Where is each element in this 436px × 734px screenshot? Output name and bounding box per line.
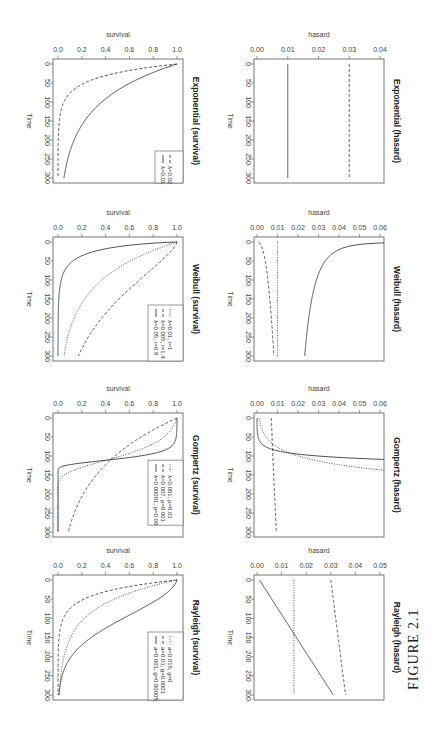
time-tick-label: 0 — [44, 240, 51, 244]
value-tick-label: 0.0 — [53, 400, 63, 407]
value-tick-label: 0.02 — [291, 224, 305, 231]
time-tick-label: 100 — [44, 612, 51, 624]
time-tick-label: 0 — [245, 240, 252, 244]
panel-weibull-survival: 0.00.20.40.60.81.0survival05010015020025… — [26, 209, 201, 362]
legend-entry: a=0.015, g=0 — [167, 647, 173, 683]
value-tick-label: 0.8 — [148, 224, 158, 231]
time-tick-label: 50 — [44, 433, 51, 441]
time-tick-label: 200 — [44, 651, 51, 663]
legend-entry: a=0.001, g=0.00005 — [153, 647, 159, 701]
time-tick-label: 300 — [44, 350, 51, 362]
value-tick-label: 0.6 — [125, 224, 135, 231]
time-tick-label: 300 — [245, 172, 252, 184]
value-tick-label: 0.6 — [125, 400, 135, 407]
value-tick-label: 1.0 — [172, 400, 182, 407]
value-tick-label: 0.8 — [148, 562, 158, 569]
time-tick-label: 100 — [44, 274, 51, 286]
value-tick-label: 1.0 — [172, 46, 182, 53]
value-tick-label: 0.2 — [77, 224, 87, 231]
plot-frame — [254, 575, 384, 700]
series-line-dashed — [331, 580, 346, 695]
time-tick-label: 200 — [245, 312, 252, 324]
time-tick-label: 0 — [44, 416, 51, 420]
time-tick-label: 0 — [245, 578, 252, 582]
value-tick-label: 0.4 — [101, 224, 111, 231]
legend: λ=0.05, r=0.8λ=0.005, r=1.4λ=0.01, r=1 — [148, 305, 183, 361]
legend-entry: λ=0.02 — [167, 166, 173, 185]
value-tick-label: 0.05 — [353, 400, 367, 407]
value-axis-label: hasard — [308, 31, 330, 38]
value-tick-label: 0.01 — [271, 224, 285, 231]
time-tick-label: 250 — [44, 331, 51, 343]
time-tick-label: 100 — [245, 96, 252, 108]
time-tick-label: 100 — [245, 274, 252, 286]
value-tick-label: 0.04 — [332, 400, 346, 407]
value-tick-label: 0.00 — [250, 562, 264, 569]
time-axis-label: Time — [227, 291, 234, 306]
time-tick-label: 50 — [245, 433, 252, 441]
time-tick-label: 150 — [245, 115, 252, 127]
value-tick-label: 0.01 — [271, 400, 285, 407]
panel-rayleigh-survival: 0.00.20.40.60.81.0survival05010015020025… — [26, 547, 201, 701]
figure-label: FIGURE 2.1 — [406, 608, 421, 690]
time-tick-label: 300 — [44, 526, 51, 538]
time-tick-label: 250 — [245, 670, 252, 682]
time-tick-label: 50 — [245, 595, 252, 603]
time-tick-label: 150 — [44, 115, 51, 127]
value-tick-label: 0.04 — [373, 46, 387, 53]
value-axis-label: hasard — [308, 209, 330, 216]
time-tick-label: 250 — [44, 153, 51, 165]
time-tick-label: 150 — [245, 293, 252, 305]
value-tick-label: 0.2 — [77, 46, 87, 53]
time-tick-label: 50 — [44, 257, 51, 265]
time-tick-label: 300 — [44, 172, 51, 184]
value-axis-label: hasard — [308, 547, 330, 554]
value-tick-label: 0.03 — [324, 562, 338, 569]
panel-title: Exponential (hasard) — [392, 79, 402, 163]
legend-entry: a=0.03, g=0.0001 — [160, 647, 166, 695]
time-tick-label: 200 — [245, 488, 252, 500]
time-tick-label: 50 — [44, 595, 51, 603]
time-tick-label: 250 — [44, 670, 51, 682]
legend-entry: λ=0.01, r=1 — [167, 320, 173, 351]
time-tick-label: 250 — [245, 153, 252, 165]
legend-entry: λ=0.007, ρ=0.001 — [160, 475, 166, 522]
legend-entry: λ=0.005, r=1.4 — [160, 320, 166, 359]
value-tick-label: 0.02 — [312, 46, 326, 53]
value-tick-label: 0.01 — [275, 562, 289, 569]
value-tick-label: 0.2 — [77, 562, 87, 569]
value-axis-label: survival — [106, 209, 130, 216]
time-tick-label: 300 — [245, 350, 252, 362]
legend: λ=0.01λ=0.02 — [155, 151, 183, 185]
time-axis-label: Time — [227, 467, 234, 482]
value-tick-label: 0.06 — [373, 400, 387, 407]
time-tick-label: 300 — [245, 526, 252, 538]
value-tick-label: 0.02 — [299, 562, 313, 569]
value-tick-label: 0.2 — [77, 400, 87, 407]
time-axis-label: Time — [26, 113, 33, 128]
time-tick-label: 300 — [245, 689, 252, 701]
value-tick-label: 0.05 — [353, 224, 367, 231]
value-tick-label: 0.00 — [250, 224, 264, 231]
figure-2-1: 0.00.20.40.60.81.0survival05010015020025… — [0, 0, 436, 734]
series-line-solid — [259, 580, 333, 695]
value-axis-label: survival — [106, 31, 130, 38]
value-tick-label: 0.4 — [101, 46, 111, 53]
value-tick-label: 0.03 — [312, 224, 326, 231]
time-tick-label: 100 — [44, 450, 51, 462]
value-tick-label: 0.04 — [332, 224, 346, 231]
series-line-dashed — [259, 242, 274, 356]
time-tick-label: 50 — [245, 79, 252, 87]
time-tick-label: 150 — [245, 632, 252, 644]
series-line-dashed — [271, 418, 276, 532]
value-tick-label: 0.00 — [250, 46, 264, 53]
panel-gompertz-survival: 0.00.20.40.60.81.0survival05010015020025… — [26, 385, 201, 538]
series-line-solid — [305, 242, 407, 356]
panel-title: Gompertz (survival) — [191, 435, 201, 515]
value-axis-label: survival — [106, 385, 130, 392]
value-tick-label: 0.03 — [312, 400, 326, 407]
legend-entry: λ=0.00001, ρ=0.08 — [153, 475, 159, 526]
time-tick-label: 250 — [245, 507, 252, 519]
panel-title: Rayleigh (hasard) — [392, 602, 402, 673]
value-tick-label: 0.0 — [53, 562, 63, 569]
